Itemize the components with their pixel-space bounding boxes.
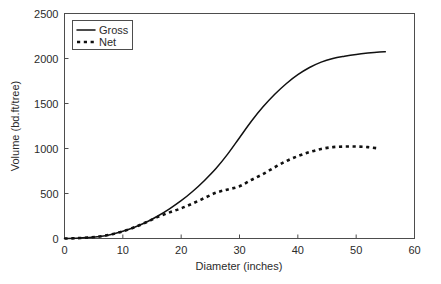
x-tick-label: 40 [292, 244, 304, 256]
x-tick-label: 10 [117, 244, 129, 256]
x-axis-title: Diameter (inches) [196, 260, 283, 272]
x-tick-label: 0 [61, 244, 67, 256]
chart-legend: Gross Net [73, 21, 133, 50]
volume-diameter-chart: 05001000150020002500 0102030405060 Diame… [0, 0, 441, 284]
y-axis-title: Volume (bd.ft/tree) [9, 81, 21, 172]
legend-label-gross: Gross [99, 24, 129, 36]
y-tick-label: 1000 [34, 143, 58, 155]
y-tick-label: 0 [52, 233, 58, 245]
chart-background [0, 0, 441, 284]
y-tick-label: 2500 [34, 8, 58, 20]
x-tick-label: 50 [350, 244, 362, 256]
x-tick-label: 60 [408, 244, 420, 256]
y-tick-label: 2000 [34, 53, 58, 65]
x-tick-label: 30 [233, 244, 245, 256]
chart-figure: 05001000150020002500 0102030405060 Diame… [0, 0, 441, 284]
y-tick-label: 1500 [34, 98, 58, 110]
y-tick-label: 500 [40, 188, 58, 200]
legend-label-net: Net [99, 36, 116, 48]
x-tick-label: 20 [175, 244, 187, 256]
